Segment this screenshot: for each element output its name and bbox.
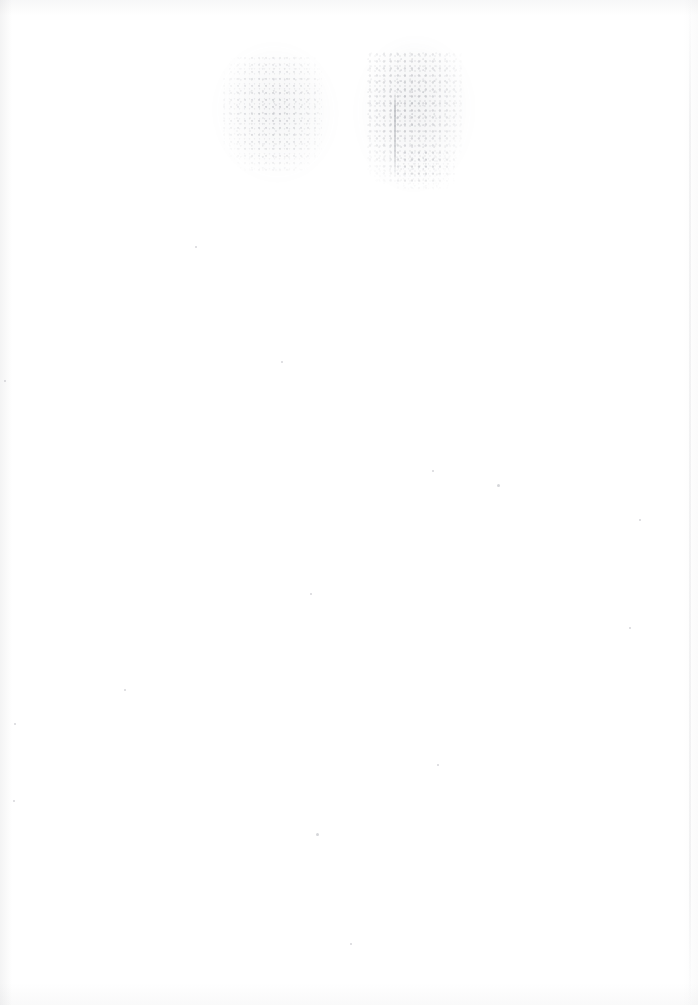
scanned-page [0,0,698,1005]
top-edge-shade [0,0,698,16]
bottom-edge-shade [0,983,698,1005]
paper-background [0,0,698,1005]
right-edge-shade [672,0,698,1005]
left-edge-shade [0,0,12,1005]
